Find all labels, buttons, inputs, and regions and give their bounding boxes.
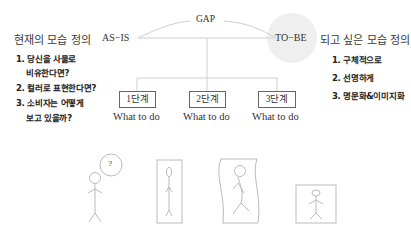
boxed-square-figure-icon [296, 185, 336, 223]
boxed-thin-figure-icon [157, 160, 182, 223]
step-2-what-to-do: What to do [183, 111, 230, 122]
current-item-3b: 보고 있을까? [26, 111, 72, 123]
step-2-box: 2단계 [189, 91, 226, 108]
current-item-1a: 1. 당신을 사물로 [16, 52, 76, 64]
question-mark: ? [108, 159, 112, 168]
as-is-label: AS−IS [102, 32, 129, 43]
desired-item-3: 3. 명문화&이미지화 [332, 89, 404, 101]
gap-label: GAP [196, 14, 215, 24]
step-1-what-to-do: What to do [113, 111, 160, 122]
wavy-framed-figure-icon [219, 159, 259, 223]
current-item-3a: 3. 소비자는 어떻게 [16, 96, 84, 108]
gap-arc-left [138, 21, 190, 38]
current-item-1b: 비유한다면? [26, 66, 69, 78]
desired-state-title: 되고 싶은 모습 정의 [320, 31, 411, 47]
step-3-what-to-do: What to do [252, 111, 299, 122]
desired-item-1: 1. 구체적으로 [332, 53, 382, 65]
current-state-title: 현재의 모습 정의 [14, 31, 91, 47]
confused-stick-figure-icon [88, 154, 122, 222]
step-1-box: 1단계 [119, 91, 156, 108]
step-3-box: 3단계 [258, 91, 296, 108]
desired-item-2: 2. 선명하게 [332, 71, 374, 83]
current-item-2: 2. 컬러로 표현한다면? [16, 81, 96, 93]
to-be-label: TO−BE [275, 32, 307, 43]
